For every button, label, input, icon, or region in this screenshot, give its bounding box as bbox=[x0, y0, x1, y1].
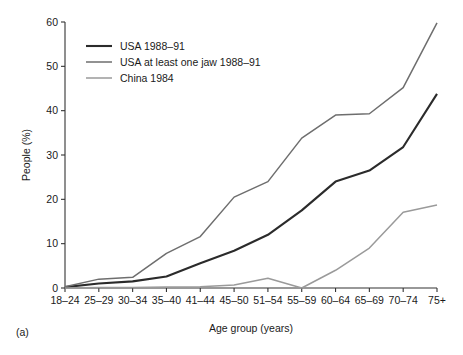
y-axis-title: People (%) bbox=[20, 129, 32, 181]
legend-label-2: China 1984 bbox=[120, 72, 174, 84]
x-tick-label-8: 60–64 bbox=[321, 294, 350, 306]
y-tick-label-50: 50 bbox=[46, 60, 58, 72]
y-tick-label-40: 40 bbox=[46, 104, 58, 116]
x-tick-label-6: 51–54 bbox=[253, 294, 282, 306]
legend-label-0: USA 1988–91 bbox=[120, 40, 185, 52]
x-tick-label-3: 35–40 bbox=[152, 294, 181, 306]
x-tick-label-5: 45–50 bbox=[219, 294, 248, 306]
x-tick-label-7: 55–59 bbox=[287, 294, 316, 306]
x-tick-label-9: 65–69 bbox=[355, 294, 384, 306]
x-tick-label-10: 70–74 bbox=[389, 294, 418, 306]
x-tick-label-0: 18–24 bbox=[50, 294, 79, 306]
x-tick-label-11: 75+ bbox=[428, 294, 446, 306]
chart-figure: 010203040506018–2425–2930–3435–4041–4445… bbox=[0, 0, 463, 355]
legend-label-1: USA at least one jaw 1988–91 bbox=[120, 56, 261, 68]
y-tick-label-10: 10 bbox=[46, 237, 58, 249]
y-tick-label-20: 20 bbox=[46, 193, 58, 205]
x-tick-label-4: 41–44 bbox=[186, 294, 215, 306]
x-tick-label-1: 25–29 bbox=[84, 294, 113, 306]
x-tick-label-2: 30–34 bbox=[118, 294, 147, 306]
y-tick-label-60: 60 bbox=[46, 16, 58, 28]
x-axis-title: Age group (years) bbox=[209, 322, 293, 334]
y-tick-label-0: 0 bbox=[52, 282, 58, 294]
y-tick-label-30: 30 bbox=[46, 149, 58, 161]
panel-label: (a) bbox=[16, 326, 29, 338]
